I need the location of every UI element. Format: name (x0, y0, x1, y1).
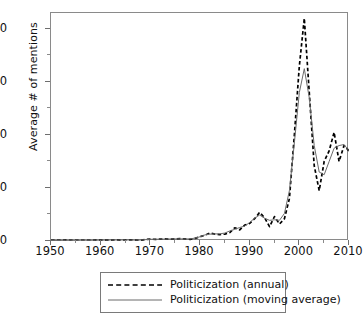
x-tick-label: 1990 (229, 244, 269, 258)
y-minor-tick (47, 54, 50, 55)
y-tick-label: 20 (0, 127, 7, 141)
series-line-annual (51, 18, 349, 240)
chart-svg (51, 13, 349, 241)
legend-swatch-solid (107, 295, 163, 305)
y-major-tick (45, 187, 50, 188)
y-major-tick (45, 81, 50, 82)
y-tick-label: 30 (0, 74, 7, 88)
y-minor-tick (47, 107, 50, 108)
legend-label-annual: Politicization (annual) (170, 278, 289, 291)
legend-item-annual: Politicization (annual) (107, 277, 279, 292)
x-tick-label: 2000 (278, 244, 318, 258)
y-major-tick (45, 28, 50, 29)
plot-area (50, 12, 348, 240)
x-tick-label: 2010 (328, 244, 363, 258)
chart-legend: Politicization (annual) Politicization (… (100, 272, 286, 313)
legend-swatch-dashed (107, 280, 163, 290)
y-minor-tick (47, 213, 50, 214)
y-major-tick (45, 134, 50, 135)
x-minor-tick (274, 240, 275, 243)
x-minor-tick (323, 240, 324, 243)
x-minor-tick (125, 240, 126, 243)
legend-label-moving-average: Politicization (moving average) (170, 293, 341, 306)
y-minor-tick (47, 160, 50, 161)
y-tick-label: 10 (0, 180, 7, 194)
x-tick-label: 1970 (129, 244, 169, 258)
chart-figure: Average # of mentions 010203040195019601… (0, 0, 363, 315)
y-tick-label: 40 (0, 21, 7, 35)
x-tick-label: 1960 (80, 244, 120, 258)
series-line-moving-average (51, 69, 349, 241)
x-tick-label: 1950 (30, 244, 70, 258)
x-tick-label: 1980 (179, 244, 219, 258)
legend-item-moving-average: Politicization (moving average) (107, 292, 279, 307)
y-axis-title: Average # of mentions (27, 2, 40, 172)
y-tick-label: 0 (0, 233, 7, 247)
x-minor-tick (174, 240, 175, 243)
series-layer (51, 18, 349, 240)
x-minor-tick (75, 240, 76, 243)
x-minor-tick (224, 240, 225, 243)
